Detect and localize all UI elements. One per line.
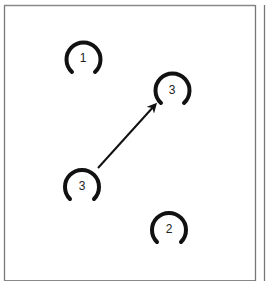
horseshoe-label-1: 1	[80, 51, 87, 65]
horseshoe-3-target: 3	[155, 73, 189, 103]
frame	[4, 5, 265, 281]
horseshoe-label-3-target: 3	[169, 83, 176, 97]
horseshoe-1: 1	[67, 42, 101, 72]
horseshoe-label-2: 2	[166, 222, 173, 236]
horseshoe-3-origin: 3	[65, 170, 99, 199]
horseshoe-2: 2	[152, 213, 186, 242]
movement-arrow	[98, 105, 155, 168]
horseshoe-label-3-origin: 3	[79, 179, 86, 193]
diagram-canvas: 1 3 3 2	[0, 0, 267, 282]
